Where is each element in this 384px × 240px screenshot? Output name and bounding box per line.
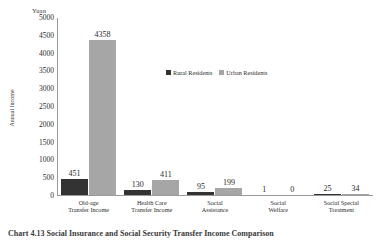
x-axis-category-label: Social SpecialTreatment [310,199,373,214]
bar-group: 4514358 [57,18,120,195]
x-axis-category-line: Treatment [310,206,373,213]
bar-value-label: 34 [351,184,359,193]
x-axis-category-line: Social [183,199,246,206]
plot-area: 451435813041195199102534 [57,18,373,196]
bar [314,194,341,195]
legend-item: Urban Residents [219,69,267,76]
bar-value-label: 95 [197,182,205,191]
bar-group: 130411 [120,18,183,195]
legend-swatch-icon [166,70,171,75]
bar [215,188,242,195]
bar-value-label: 0 [290,185,294,194]
bar [61,179,88,195]
bar [187,192,214,195]
bar-column: 199 [215,18,242,195]
bar [89,40,116,195]
x-axis-category-label: Old-ageTransfer Income [57,199,120,214]
x-axis-category-line: Social [247,199,310,206]
x-axis-category-label: Health CareTransfer Income [120,199,183,214]
bar-column: 4358 [89,18,116,195]
bar-value-label: 451 [69,169,81,178]
x-axis-category-line: Social Special [310,199,373,206]
bar-column: 25 [314,18,341,195]
y-axis-tick: 4500 [39,32,54,40]
bar-column: 130 [124,18,151,195]
bar-group: 10 [247,18,310,195]
bar-value-label: 199 [223,178,235,187]
bar-column: 95 [187,18,214,195]
bar-groups: 451435813041195199102534 [57,18,373,196]
y-axis-tick: 4000 [39,50,54,58]
x-axis-category-line: Transfer Income [120,206,183,213]
bar-group: 95199 [183,18,246,195]
legend-label: Urban Residents [226,69,267,76]
legend-swatch-icon [219,70,224,75]
y-axis-tick: 500 [43,174,54,182]
chart-figure: Yuan Annual Income 500045004000350030002… [0,0,384,240]
x-axis-category-line: Welfare [247,206,310,213]
x-axis-category-line: Old-age [57,199,120,206]
bar-value-label: 130 [132,180,144,189]
y-axis-tick-labels: 5000450040003500300025002000150010005000 [20,18,54,196]
x-axis-category-line: Transfer Income [57,206,120,213]
y-axis-tick: 1500 [39,139,54,147]
x-axis-category-line: Assistance [183,206,246,213]
y-axis-tick: 2500 [39,103,54,111]
y-axis-tick: 3000 [39,85,54,93]
figure-caption: Chart 4.13 Social Insurance and Social S… [8,229,380,239]
bar-column: 411 [152,18,179,195]
bar-value-label: 25 [323,184,331,193]
bar-column: 1 [251,18,278,195]
bar-column: 451 [61,18,88,195]
x-axis-category-line: Health Care [120,199,183,206]
bar [124,190,151,195]
x-axis-category-label: SocialAssistance [183,199,246,214]
bar-value-label: 1 [262,185,266,194]
y-axis-tick: 3500 [39,67,54,75]
x-axis-category-label: SocialWelfare [247,199,310,214]
x-axis-category-labels: Old-ageTransfer IncomeHealth CareTransfe… [57,199,373,225]
legend-label: Rural Residents [173,69,212,76]
y-axis-tick: 1000 [39,156,54,164]
bar-column: 0 [279,18,306,195]
bar [342,194,369,195]
y-axis-tick: 0 [50,192,54,200]
legend-item: Rural Residents [166,69,212,76]
bar-value-label: 411 [160,170,172,179]
bar-column: 34 [342,18,369,195]
bar-group: 2534 [310,18,373,195]
y-axis-tick: 2000 [39,121,54,129]
y-axis-title: Annual Income [9,72,15,144]
bar [152,180,179,195]
chart-legend: Rural ResidentsUrban Residents [166,69,267,76]
bar-value-label: 4358 [95,30,111,39]
y-axis-tick: 5000 [39,14,54,22]
